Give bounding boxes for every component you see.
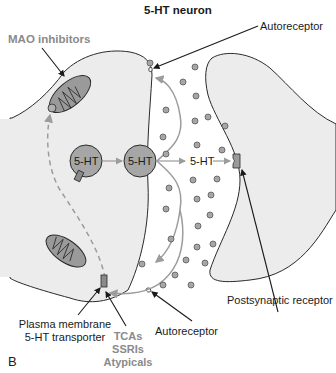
mao-inhibitors-label: MAO inhibitors [8,33,90,45]
transporter-label-line1: Plasma membrane [15,318,115,330]
vesicle-left-label: 5-HT [74,155,98,167]
postsynaptic-receptor [233,154,240,168]
panel-letter: B [8,356,17,368]
plasma-membrane-transporter [101,275,107,287]
drug-label-atypicals: Atypicals [98,356,158,368]
cleft-serotonin-label: 5-HT [190,155,214,167]
autoreceptor-top-label: Autoreceptor [260,20,323,32]
drug-label-tcas: TCAs [103,330,153,342]
vesicle-right-label: 5-HT [128,155,152,167]
autoreceptor-bottom-label: Autoreceptor [155,325,218,337]
transporter-label-line2: 5-HT transporter [15,331,115,343]
drug-label-ssris: SSRIs [103,343,153,355]
postsynaptic-receptor-label: Postsynaptic receptor [227,294,333,306]
postsynaptic-neuron [206,53,336,281]
autoreceptor-top-notch [149,67,152,71]
figure-title: 5-HT neuron [144,4,212,16]
